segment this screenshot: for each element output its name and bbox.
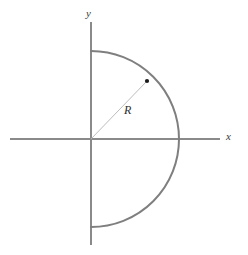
semicircle-figure: y x R <box>0 0 248 255</box>
radius-line <box>91 81 147 139</box>
figure-vector-layer <box>0 0 248 255</box>
y-axis-label: y <box>86 8 91 19</box>
x-axis-label: x <box>226 131 231 142</box>
radius-label: R <box>124 104 131 116</box>
radius-endpoint-dot <box>145 79 149 83</box>
